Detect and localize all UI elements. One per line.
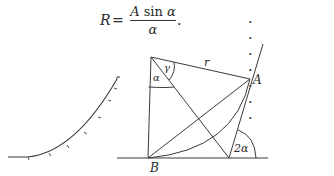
tick-marks bbox=[28, 88, 117, 160]
side-apex-B bbox=[148, 57, 151, 158]
geometry-figure: A B r γ α 2α bbox=[0, 0, 334, 176]
label-2alpha: 2α bbox=[233, 142, 249, 155]
label-gamma: γ bbox=[164, 62, 170, 73]
angle-arc-outer bbox=[149, 87, 174, 88]
left-curve-hook bbox=[117, 77, 120, 79]
label-r: r bbox=[204, 56, 210, 69]
label-alpha: α bbox=[153, 72, 160, 83]
tangent-line bbox=[229, 44, 263, 158]
label-A: A bbox=[252, 73, 262, 87]
label-B: B bbox=[149, 161, 159, 175]
